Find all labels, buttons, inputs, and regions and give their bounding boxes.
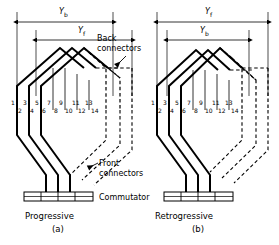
conductor-number: 11 [72,99,80,106]
caption-progressive: Progressive [25,211,74,221]
conductor-number: 4 [30,107,34,114]
conductor-number: 3 [163,99,167,106]
conductor-number: 2 [158,107,162,114]
conductor-number: 8 [54,107,58,114]
conductor-number: 13 [85,99,93,106]
conductor-number: 3 [23,99,27,106]
front-connectors-dashed-b [210,110,268,183]
back-connectors-label-line2: connectors [97,44,141,53]
annotation-back-connectors: Back connectors [97,34,141,66]
conductor-number: 9 [199,99,203,106]
commutator-label: Commutator [99,193,150,202]
winding-diagram-svg: Yb Yf [0,0,279,245]
dimension-yb-a: Yb [18,7,112,22]
conductor-number: 14 [231,107,239,114]
conductor-number: 2 [18,107,22,114]
dimension-yb-b-label: Yb [200,26,209,37]
conductor-number: 10 [205,107,213,114]
conductor-number: 11 [212,99,220,106]
sub-caption-a: (a) [52,224,64,234]
conductor-number: 14 [91,107,99,114]
conductor-number: 13 [225,99,233,106]
conductor-number: 7 [187,99,191,106]
conductor-number: 6 [182,107,186,114]
conductor-number: 6 [42,107,46,114]
conductor-number: 1 [151,99,155,106]
back-connectors-leader-line [116,56,126,66]
conductor-numbers-b: 1 2 3 4 5 6 7 8 9 10 11 12 13 14 [151,99,239,114]
conductor-number: 4 [170,107,174,114]
panel-retrogressive: Yf Yb [151,7,268,234]
annotation-front-connectors: Front connectors [88,159,143,178]
conductor-number: 5 [35,99,39,106]
back-connectors-label-line1: Back [97,34,117,43]
commutator-b [164,192,233,201]
front-connectors-solid-b [157,110,210,192]
commutator-a [24,192,93,201]
conductor-number: 9 [59,99,63,106]
dimension-yb-a-label: Yb [59,7,68,18]
figure-canvas: Yb Yf [0,0,279,245]
dimension-yf-b-label: Yf [205,7,213,18]
dimension-yf-a: Yf [37,26,131,40]
conductor-number: 5 [175,99,179,106]
dimension-yb-b: Yb [168,26,248,40]
conductor-number: 10 [65,107,73,114]
conductor-number: 12 [78,107,86,114]
dimension-yf-a-label: Yf [78,26,86,37]
sub-caption-b: (b) [192,224,204,234]
dimension-extension-lines-a [17,12,132,96]
conductor-number: 8 [194,107,198,114]
conductor-number: 12 [218,107,226,114]
conductor-number: 7 [47,99,51,106]
front-connectors-label-line1: Front [99,159,119,168]
caption-retrogressive: Retrogressive [155,211,213,221]
conductor-numbers-a: 1 2 3 4 5 6 7 8 9 10 11 12 13 14 [11,99,99,114]
front-connectors-solid-a [17,110,70,192]
front-connectors-label-line2: connectors [99,169,143,178]
dimension-yf-b: Yf [158,7,267,22]
conductor-number: 1 [11,99,15,106]
